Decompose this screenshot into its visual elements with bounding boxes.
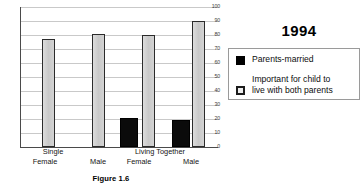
- group-label-living-together: Living Together: [117, 148, 203, 156]
- legend-title-year: 1994: [236, 22, 362, 39]
- legend-label-important-line1: Important for child to: [252, 74, 330, 85]
- legend-swatch-white-square: [236, 86, 245, 95]
- sub-label-single-female: Female: [22, 158, 68, 166]
- legend-label-important-line2: live with both parents: [252, 85, 333, 96]
- legend: Parents-married Important for child to l…: [228, 48, 360, 100]
- bar-light-single-female: [42, 39, 55, 147]
- x-axis-labels: Single Living Together Female Male Femal…: [0, 148, 222, 174]
- bar-light-single-male: [92, 34, 105, 147]
- sub-label-living-together-female: Female: [116, 158, 162, 166]
- group-label-single: Single: [23, 148, 83, 156]
- sub-label-living-together-male: Male: [168, 158, 214, 166]
- bar-dark-living-together-male: [172, 120, 190, 147]
- bar-chart-plot: 1009080706050403020100: [0, 0, 222, 160]
- legend-label-parents-married: Parents-married: [252, 54, 314, 65]
- bar-light-living-together-male: [192, 21, 205, 147]
- bar-series-layer: [20, 7, 218, 147]
- bar-dark-living-together-female: [120, 118, 138, 147]
- sub-label-single-male: Male: [75, 158, 121, 166]
- figure-caption: Figure 1.6: [0, 174, 222, 183]
- bar-light-living-together-female: [142, 35, 155, 147]
- legend-swatch-black-square: [236, 56, 245, 65]
- figure-container: 1009080706050403020100 Single Living Tog…: [0, 0, 362, 193]
